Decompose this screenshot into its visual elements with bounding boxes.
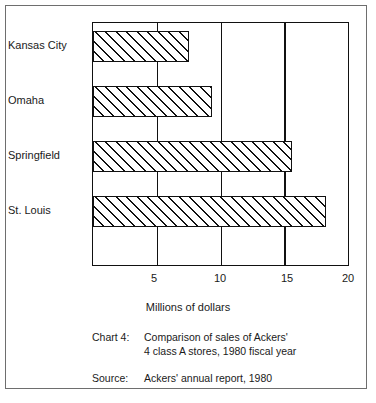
source-caption-row: Source: Ackers' annual report, 1980 <box>92 372 362 386</box>
plot-area <box>92 22 349 266</box>
category-label-omaha: Omaha <box>8 94 92 106</box>
xtick-label-10: 10 <box>200 272 240 285</box>
source-caption-key: Source: <box>92 372 144 386</box>
source-caption-line-1: Ackers' annual report, 1980 <box>144 372 362 386</box>
category-axis-labels: Kansas City Omaha Springfield St. Louis <box>8 22 92 266</box>
x-axis-title: Millions of dollars <box>0 301 376 314</box>
source-caption-text: Ackers' annual report, 1980 <box>144 372 362 386</box>
bar-springfield[interactable] <box>93 141 292 172</box>
bar-st-louis[interactable] <box>93 196 326 227</box>
caption-block: Chart 4: Comparison of sales of Ackers' … <box>92 331 362 386</box>
bar-kansas-city[interactable] <box>93 31 189 62</box>
category-label-springfield: Springfield <box>8 149 92 161</box>
xtick-label-20: 20 <box>328 272 368 285</box>
chart-caption-key: Chart 4: <box>92 331 144 345</box>
bar-omaha[interactable] <box>93 86 212 117</box>
xtick-label-5: 5 <box>134 272 174 285</box>
category-label-st-louis: St. Louis <box>8 204 92 216</box>
figure-chart-4: Kansas City Omaha Springfield St. Louis … <box>0 0 376 403</box>
category-label-kansas-city: Kansas City <box>8 39 92 51</box>
chart-caption-line-1: Comparison of sales of Ackers' <box>144 331 362 345</box>
xtick-label-15: 15 <box>267 272 307 285</box>
chart-caption-row: Chart 4: Comparison of sales of Ackers' … <box>92 331 362 358</box>
chart-caption-text: Comparison of sales of Ackers' 4 class A… <box>144 331 362 358</box>
chart-caption-line-2: 4 class A stores, 1980 fiscal year <box>144 345 362 359</box>
